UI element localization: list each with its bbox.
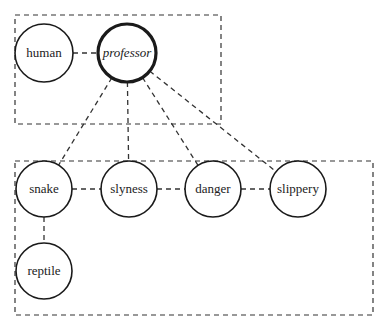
edge-professor-snake	[59, 78, 112, 165]
node-label: snake	[29, 181, 59, 196]
node-label: slippery	[277, 181, 319, 196]
concept-diagram: humanprofessorsnakeslynessdangerslippery…	[0, 0, 387, 331]
edge-professor-danger	[142, 78, 198, 166]
node-label: danger	[195, 181, 231, 196]
edge-professor-slippery	[150, 71, 276, 172]
node-snake: snake	[16, 161, 72, 217]
node-label: reptile	[27, 263, 60, 278]
node-reptile: reptile	[16, 243, 72, 299]
node-slippery: slippery	[270, 161, 326, 217]
node-slyness: slyness	[101, 161, 157, 217]
edge-professor-slyness	[127, 82, 128, 161]
node-label: slyness	[110, 181, 148, 196]
node-label: professor	[102, 45, 153, 60]
node-danger: danger	[185, 161, 241, 217]
node-professor: professor	[98, 24, 156, 82]
node-human: human	[15, 24, 73, 82]
node-label: human	[26, 45, 62, 60]
edges	[44, 53, 276, 243]
